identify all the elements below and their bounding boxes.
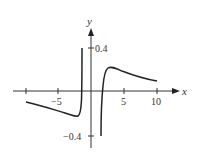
x-tick-label: −5 — [51, 96, 62, 107]
x-axis-label: x — [181, 85, 187, 97]
x-tick-label: 10 — [151, 96, 161, 107]
x-tick-label: 5 — [121, 96, 126, 107]
y-tick-label: −0.4 — [63, 131, 81, 142]
y-axis-arrow-icon — [88, 28, 94, 36]
function-graph: x y −5 5 10 0.4 −0.4 — [0, 0, 197, 162]
y-axis-label: y — [86, 15, 92, 27]
x-axis-arrow-icon — [172, 88, 180, 94]
y-tick-label: 0.4 — [95, 43, 108, 54]
curve-right-branch — [101, 67, 157, 136]
